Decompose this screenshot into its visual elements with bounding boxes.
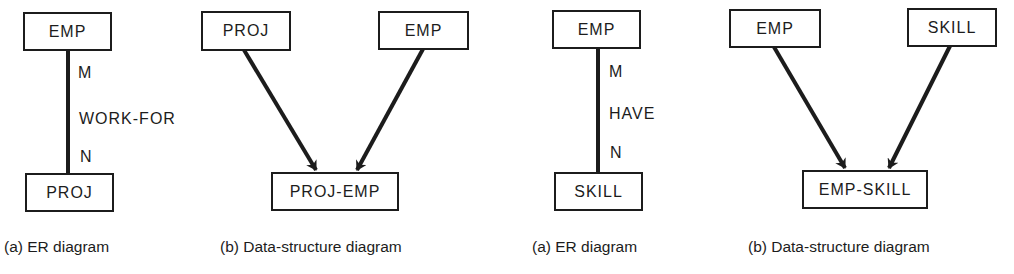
record-box-proj-emp: PROJ-EMP — [271, 172, 399, 211]
entity-box-emp: EMP — [552, 10, 641, 49]
relationship-label: WORK-FOR — [79, 111, 176, 127]
entity-box-emp: EMP — [23, 12, 112, 51]
entity-box-proj: PROJ — [25, 173, 114, 212]
record-box-skill: SKILL — [907, 8, 997, 47]
arrow-emp-to-proj-emp — [357, 49, 423, 170]
cardinality-m: M — [78, 65, 92, 81]
caption: (b) Data-structure diagram — [220, 238, 402, 256]
cardinality-m: M — [609, 64, 623, 80]
caption: (b) Data-structure diagram — [748, 238, 930, 256]
caption: (a) ER diagram — [532, 238, 637, 256]
cardinality-n: N — [80, 149, 93, 165]
arrow-skill-to-emp-skill — [889, 46, 950, 168]
record-box-emp: EMP — [729, 9, 821, 48]
record-box-proj: PROJ — [201, 11, 291, 51]
entity-box-skill: SKILL — [554, 172, 643, 211]
record-box-emp-skill: EMP-SKILL — [802, 170, 928, 209]
cardinality-n: N — [610, 145, 623, 161]
caption: (a) ER diagram — [4, 238, 109, 256]
record-box-emp: EMP — [378, 11, 469, 50]
arrow-emp-to-emp-skill — [774, 47, 845, 168]
arrow-proj-to-proj-emp — [244, 50, 316, 170]
relationship-label: HAVE — [609, 106, 655, 122]
connectors-layer — [0, 0, 1014, 274]
